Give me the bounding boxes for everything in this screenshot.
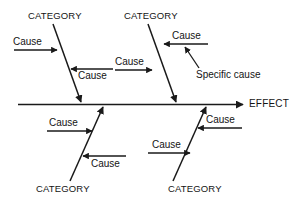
cause-label-tl-upper: Cause xyxy=(13,37,42,47)
specific-cause-label: Specific cause xyxy=(196,70,260,80)
category-label-bottom-right: CATEGORY xyxy=(168,184,222,194)
category-label-top-left: CATEGORY xyxy=(28,11,82,21)
specific-cause-leader xyxy=(185,47,199,68)
cause-label-tl-lower: Cause xyxy=(78,71,107,81)
effect-label: EFFECT xyxy=(249,99,289,109)
cause-label-br-upper: Cause xyxy=(206,115,235,125)
cause-label-bl-lower: Cause xyxy=(91,159,120,169)
bone-top-left xyxy=(53,24,81,102)
category-label-top-right: CATEGORY xyxy=(124,11,178,21)
cause-label-bl-upper: Cause xyxy=(49,118,78,128)
category-label-bottom-left: CATEGORY xyxy=(36,184,90,194)
cause-label-tr-lower: Cause xyxy=(115,57,144,67)
cause-label-tr-upper: Cause xyxy=(172,31,201,41)
cause-label-br-lower: Cause xyxy=(152,140,181,150)
fishbone-diagram: CATEGORY CATEGORY CATEGORY CATEGORY Caus… xyxy=(0,0,297,203)
